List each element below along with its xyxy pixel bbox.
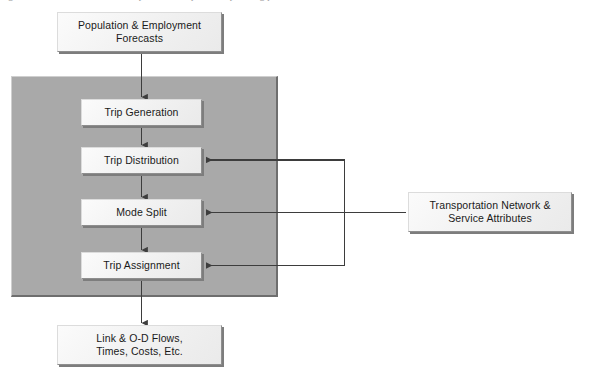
node-population-employment-forecasts: Population & Employment Forecasts	[57, 12, 222, 52]
node-trip-distribution: Trip Distribution	[81, 147, 202, 174]
flowchart-diagram: Figure 1 The conventional four-step urba…	[0, 0, 591, 381]
figure-caption-sliver: Figure 1 The conventional four-step urba…	[0, 0, 591, 3]
node-transportation-network-service-attributes: Transportation Network & Service Attribu…	[408, 192, 572, 232]
node-link-od-flows-times-costs: Link & O-D Flows, Times, Costs, Etc.	[57, 325, 222, 365]
node-mode-split: Mode Split	[81, 199, 202, 226]
node-trip-assignment: Trip Assignment	[81, 252, 202, 279]
node-trip-generation: Trip Generation	[81, 99, 202, 126]
